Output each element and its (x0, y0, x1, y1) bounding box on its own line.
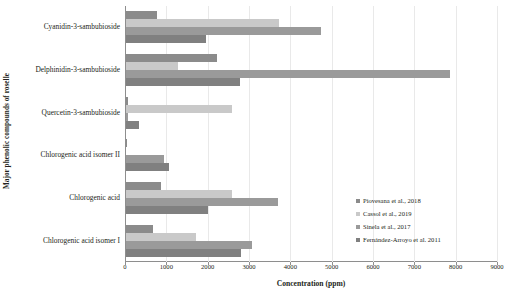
chart-legend: Piovesana et al., 2018Cassol et al., 201… (356, 194, 506, 246)
x-axis-tick-labels: 0100020003000400050006000700080009000 (125, 263, 497, 275)
bar (126, 54, 217, 62)
legend-swatch-icon (356, 212, 360, 216)
bar (126, 113, 128, 121)
category-axis-labels: Cyanidin-3-sambubiosideDelphinidin-3-sam… (14, 6, 123, 262)
x-tick-label: 4000 (284, 263, 297, 270)
bar (126, 78, 240, 86)
x-axis-title: Concentration (ppm) (125, 279, 497, 288)
legend-item[interactable]: Fernández-Arroyo et al. 2011 (356, 233, 506, 246)
x-tick-label: 6000 (366, 263, 379, 270)
category-label: Quercetin-3-sambubioside (42, 106, 120, 120)
bar (126, 198, 278, 206)
bar (126, 139, 127, 147)
x-axis-line (125, 261, 497, 262)
bar (126, 70, 450, 78)
category-label: Chlorogenic acid (69, 191, 120, 205)
x-tick-label: 3000 (242, 263, 255, 270)
x-tick-label: 8000 (449, 263, 462, 270)
bar (126, 27, 321, 35)
bar (126, 11, 157, 19)
bar (126, 225, 153, 233)
y-axis-line (125, 6, 126, 262)
legend-swatch-icon (356, 238, 360, 242)
bar (126, 19, 279, 27)
gridline (208, 6, 209, 262)
category-label: Delphinidin-3-sambubioside (35, 63, 120, 77)
category-label: Cyanidin-3-sambubioside (44, 20, 120, 34)
gridline (249, 6, 250, 262)
bar (126, 62, 178, 70)
bar (126, 155, 164, 163)
bar (126, 182, 161, 190)
y-axis-title: Major phenolic compounds of roselle (0, 0, 14, 262)
legend-item[interactable]: Piovesana et al., 2018 (356, 194, 506, 207)
legend-swatch-icon (356, 199, 360, 203)
legend-swatch-icon (356, 225, 360, 229)
x-tick-label: 2000 (201, 263, 214, 270)
y-axis-title-text: Major phenolic compounds of roselle (3, 73, 11, 189)
gridline (166, 6, 167, 262)
x-tick-label: 0 (123, 263, 126, 270)
bar (126, 206, 208, 214)
bar (126, 249, 241, 257)
legend-label: Cassol et al., 2019 (363, 210, 412, 217)
bar (126, 233, 196, 241)
bar (126, 163, 169, 171)
legend-label: Sinela et al., 2017 (363, 223, 410, 230)
bar (126, 35, 206, 43)
legend-label: Fernández-Arroyo et al. 2011 (363, 236, 441, 243)
category-label: Chlorogenic acid isomer I (43, 234, 120, 248)
category-label: Chlorogenic acid isomer II (41, 148, 120, 162)
bar (126, 97, 128, 105)
bar (126, 105, 232, 113)
legend-label: Piovesana et al., 2018 (363, 197, 421, 204)
bar (126, 241, 252, 249)
bar-chart: Major phenolic compounds of roselle Cyan… (0, 0, 526, 300)
bar (126, 121, 139, 129)
x-tick-label: 5000 (325, 263, 338, 270)
x-tick-label: 9000 (490, 263, 503, 270)
bar (126, 190, 232, 198)
x-tick-label: 7000 (408, 263, 421, 270)
gridline (332, 6, 333, 262)
legend-item[interactable]: Sinela et al., 2017 (356, 220, 506, 233)
gridline (290, 6, 291, 262)
legend-item[interactable]: Cassol et al., 2019 (356, 207, 506, 220)
x-tick-label: 1000 (160, 263, 173, 270)
